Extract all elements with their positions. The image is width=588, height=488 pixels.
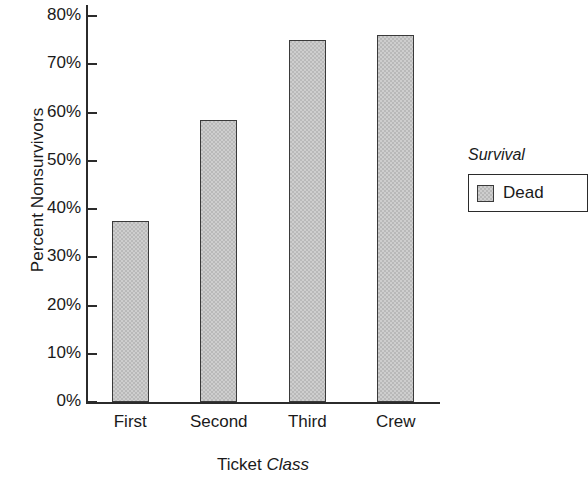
y-axis-title: Percent Nonsurvivors: [28, 70, 48, 310]
x-axis-tick-label: First: [114, 412, 147, 432]
legend-title: Survival: [468, 146, 588, 164]
y-axis-tick: 30%: [88, 256, 97, 258]
x-axis-tick-label: Crew: [376, 412, 416, 432]
y-axis-tick-label: 40%: [47, 198, 81, 218]
y-axis-tick-label: 0%: [56, 391, 81, 411]
bar: [289, 40, 326, 402]
y-axis-tick-label: 10%: [47, 343, 81, 363]
x-axis-tick-label: Third: [288, 412, 327, 432]
x-axis-line: [86, 402, 440, 404]
y-axis-tick-label: 30%: [47, 246, 81, 266]
y-axis-tick: 50%: [88, 160, 97, 162]
x-axis-title-plain: Ticket: [217, 455, 262, 474]
legend-entry-label: Dead: [503, 183, 544, 203]
y-axis-tick: 60%: [88, 112, 97, 114]
plot-area: 0%10%20%30%40%50%60%70%80%: [86, 5, 440, 404]
y-axis-tick: 20%: [88, 305, 97, 307]
x-axis-title-italic: Class: [266, 455, 309, 474]
y-axis-tick: 40%: [88, 208, 97, 210]
x-axis-title: Ticket Class: [86, 455, 440, 475]
bar: [200, 120, 237, 402]
y-axis-tick: 0%: [88, 401, 97, 403]
y-axis-tick-label: 70%: [47, 53, 81, 73]
bar: [377, 35, 414, 402]
y-axis-tick-label: 20%: [47, 295, 81, 315]
x-axis-tick-label: Second: [190, 412, 248, 432]
y-axis-tick-label: 50%: [47, 150, 81, 170]
y-axis-tick: 10%: [88, 353, 97, 355]
y-axis-tick: 70%: [88, 63, 97, 65]
legend-box: Dead: [468, 174, 588, 212]
y-axis-tick-label: 80%: [47, 5, 81, 25]
legend-swatch-icon: [477, 185, 494, 202]
bar: [112, 221, 149, 402]
legend-entry[interactable]: Dead: [477, 183, 577, 203]
y-axis-tick-label: 60%: [47, 102, 81, 122]
y-axis-tick: 80%: [88, 15, 97, 17]
legend: Survival Dead: [468, 146, 588, 212]
